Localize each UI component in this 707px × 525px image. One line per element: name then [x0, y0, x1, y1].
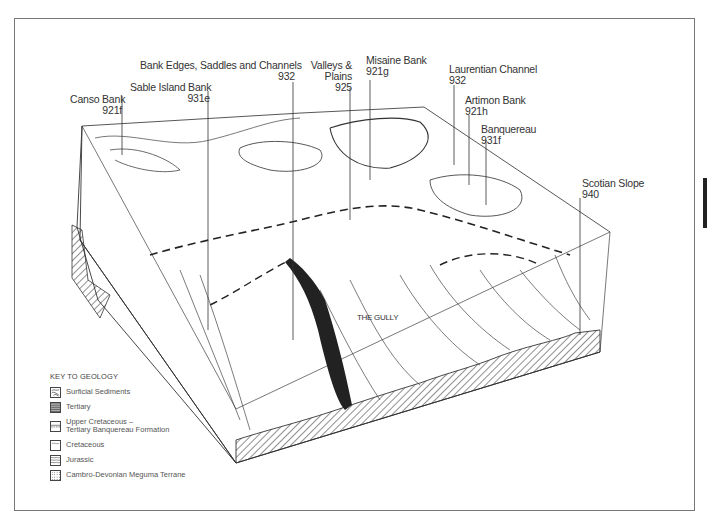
- key-label: Upper Cretaceous – Tertiary Banquereau F…: [66, 418, 169, 435]
- key-label: Surficial Sediments: [66, 388, 130, 397]
- banquereau-swatch-icon: [50, 421, 61, 432]
- key-label-line2: Tertiary Banquereau Formation: [66, 425, 169, 434]
- callout-artimon-bank: Artimon Bank 921h: [465, 95, 526, 117]
- callout-name: Bank Edges, Saddles and Channels: [140, 60, 295, 71]
- key-item-surficial: Surficial Sediments: [50, 385, 186, 399]
- callout-sable-island-bank: Sable Island Bank 931e: [130, 82, 210, 104]
- callout-banquereau: Banquereau 931f: [481, 124, 536, 146]
- the-gully-label: THE GULLY: [357, 313, 398, 322]
- key-label: Tertiary: [66, 403, 91, 412]
- callout-code: 925: [300, 82, 352, 93]
- key-label: Cretaceous: [66, 441, 104, 450]
- callout-code: 940: [582, 189, 644, 200]
- geology-key: KEY TO GEOLOGY Surficial Sediments Terti…: [50, 372, 186, 483]
- key-title: KEY TO GEOLOGY: [50, 372, 186, 381]
- callout-code: 932: [140, 71, 295, 82]
- callout-code: 921g: [366, 66, 427, 77]
- callout-code: 921h: [465, 106, 526, 117]
- tertiary-swatch-icon: [50, 402, 61, 413]
- jurassic-swatch-icon: [50, 455, 61, 466]
- callout-code: 931e: [130, 93, 210, 104]
- callout-canso-bank: Canso Bank 921f: [70, 94, 122, 116]
- callout-scotian-slope: Scotian Slope 940: [582, 178, 644, 200]
- callout-misaine-bank: Misaine Bank 921g: [366, 55, 427, 77]
- key-item-upper-cretaceous: Upper Cretaceous – Tertiary Banquereau F…: [50, 415, 186, 437]
- key-item-jurassic: Jurassic: [50, 453, 186, 467]
- key-item-meguma: Cambro-Devonian Meguma Terrane: [50, 468, 186, 482]
- callout-code: 921f: [70, 105, 122, 116]
- callout-code: 932: [449, 75, 537, 86]
- callout-bank-edges: Bank Edges, Saddles and Channels 932: [140, 60, 295, 82]
- meguma-swatch-icon: [50, 470, 61, 481]
- callout-laurentian-channel: Laurentian Channel 932: [449, 64, 537, 86]
- cretaceous-swatch-icon: [50, 440, 61, 451]
- surficial-swatch-icon: [50, 387, 61, 398]
- key-item-tertiary: Tertiary: [50, 400, 186, 414]
- key-label: Jurassic: [66, 456, 94, 465]
- key-label: Cambro-Devonian Meguma Terrane: [66, 471, 186, 480]
- callout-valleys-plains: Valleys & Plains 925: [300, 60, 352, 93]
- key-item-cretaceous: Cretaceous: [50, 438, 186, 452]
- callout-code: 931f: [481, 135, 536, 146]
